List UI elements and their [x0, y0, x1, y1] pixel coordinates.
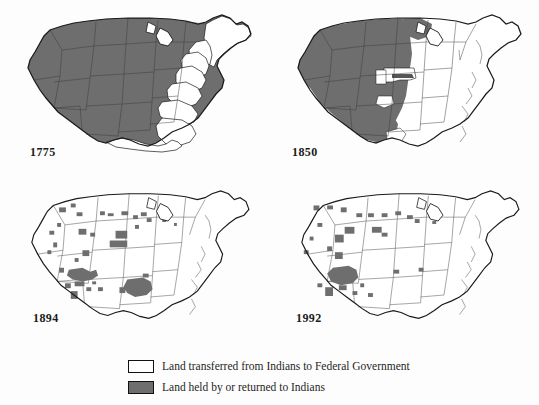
legend-item-held: Land held by or returned to Indians	[128, 378, 428, 397]
year-label-1775: 1775	[30, 145, 56, 160]
map-legend: Land transferred from Indians to Federal…	[128, 357, 428, 399]
indian-land-loss-figure: 1775	[0, 0, 539, 405]
us-map-1775	[10, 10, 260, 160]
year-label-1992: 1992	[296, 311, 322, 326]
year-label-1850: 1850	[292, 145, 318, 160]
year-label-1894: 1894	[33, 311, 59, 326]
legend-label-held: Land held by or returned to Indians	[162, 381, 325, 394]
legend-label-transferred: Land transferred from Indians to Federal…	[162, 360, 410, 373]
legend-swatch-gray-icon	[128, 381, 154, 394]
map-panel-1850[interactable]	[280, 10, 530, 160]
map-panel-1775[interactable]	[10, 10, 260, 160]
us-map-1850	[280, 10, 530, 160]
legend-swatch-white-icon	[128, 360, 154, 373]
legend-item-transferred: Land transferred from Indians to Federal…	[128, 357, 428, 376]
